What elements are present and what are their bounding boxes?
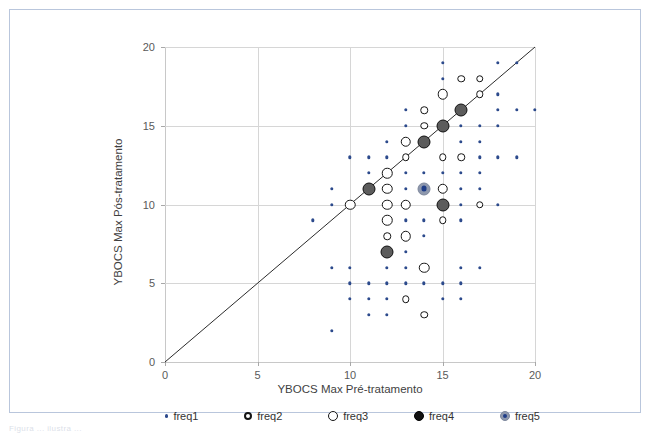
data-point-freq2 [439, 217, 447, 225]
data-point-freq1 [404, 266, 407, 269]
data-point-freq1 [367, 297, 370, 300]
data-point-freq1 [367, 313, 370, 316]
y-tick-label-15: 15 [143, 120, 155, 132]
gridline-x-20 [535, 47, 536, 362]
x-tick-5 [258, 362, 259, 366]
data-point-freq1 [385, 156, 388, 159]
data-point-freq1 [496, 61, 499, 64]
data-point-freq1 [459, 187, 462, 190]
data-point-freq1 [330, 329, 333, 332]
scatter-plot-area: 0510152005101520 [165, 47, 535, 362]
y-axis-title: YBOCS Max Pós-tratamento [112, 97, 124, 327]
data-point-freq3 [382, 199, 393, 210]
data-point-freq1 [478, 266, 481, 269]
data-point-freq1 [404, 250, 407, 253]
y-tick-label-10: 10 [143, 199, 155, 211]
data-point-freq3 [382, 215, 393, 226]
data-point-freq1 [404, 187, 407, 190]
y-tick-label-20: 20 [143, 41, 155, 53]
legend-item-freq2: freq2 [244, 410, 282, 422]
legend-label-freq3: freq3 [343, 410, 368, 422]
data-point-freq1 [348, 282, 351, 285]
data-point-freq1 [496, 93, 499, 96]
data-point-freq2 [420, 106, 428, 114]
legend-item-freq4: freq4 [414, 410, 454, 422]
data-point-freq1 [459, 219, 462, 222]
data-point-freq2 [420, 311, 428, 319]
data-point-freq3 [382, 184, 393, 195]
legend-label-freq2: freq2 [257, 410, 282, 422]
data-point-freq1 [441, 77, 444, 80]
y-tick-20 [161, 47, 165, 48]
data-point-freq4 [436, 198, 449, 211]
data-point-freq5 [418, 182, 431, 195]
data-point-freq3 [400, 231, 411, 242]
legend-marker-freq1-icon [165, 414, 168, 417]
legend-marker-freq5-icon [500, 411, 510, 421]
data-point-freq1 [478, 187, 481, 190]
data-point-freq1 [385, 282, 388, 285]
gridline-x-5 [258, 47, 259, 362]
x-tick-label-0: 0 [162, 369, 168, 381]
data-point-freq2 [402, 154, 410, 162]
y-tick-10 [161, 205, 165, 206]
data-point-freq3 [345, 199, 356, 210]
data-point-freq1 [441, 282, 444, 285]
data-point-freq1 [404, 108, 407, 111]
data-point-freq1 [404, 171, 407, 174]
data-point-freq3 [400, 199, 411, 210]
data-point-freq4 [436, 119, 449, 132]
data-point-freq2 [476, 201, 484, 209]
data-point-freq2 [439, 154, 447, 162]
data-point-freq1 [459, 171, 462, 174]
data-point-freq1 [330, 266, 333, 269]
data-point-freq3 [400, 136, 411, 147]
legend-item-freq5: freq5 [500, 410, 540, 422]
data-point-freq3 [382, 168, 393, 179]
data-point-freq4 [381, 245, 394, 258]
x-tick-label-5: 5 [254, 369, 260, 381]
data-point-freq1 [496, 108, 499, 111]
data-point-freq1 [496, 156, 499, 159]
figure-frame: 0510152005101520 YBOCS Max Pós-tratament… [9, 9, 641, 413]
data-point-freq1 [515, 61, 518, 64]
y-tick-label-0: 0 [149, 356, 155, 368]
legend-label-freq1: freq1 [173, 410, 198, 422]
y-tick-0 [161, 362, 165, 363]
x-tick-10 [350, 362, 351, 366]
data-point-freq3 [437, 184, 448, 195]
data-point-freq1 [441, 297, 444, 300]
legend-label-freq4: freq4 [429, 410, 454, 422]
legend-item-freq1: freq1 [165, 410, 198, 422]
data-point-freq1 [367, 282, 370, 285]
legend-label-freq5: freq5 [515, 410, 540, 422]
data-point-freq1 [478, 156, 481, 159]
data-point-freq1 [459, 297, 462, 300]
data-point-freq1 [478, 171, 481, 174]
data-point-freq1 [496, 124, 499, 127]
data-point-freq1 [515, 108, 518, 111]
data-point-freq1 [367, 156, 370, 159]
data-point-freq2 [457, 75, 465, 83]
y-tick-15 [161, 126, 165, 127]
data-point-freq1 [459, 266, 462, 269]
data-point-freq1 [422, 171, 425, 174]
data-point-freq2 [457, 154, 465, 162]
data-point-freq1 [311, 219, 314, 222]
data-point-freq1 [441, 171, 444, 174]
data-point-freq1 [422, 234, 425, 237]
figure-caption-text: Figura ... ilustra ... [9, 424, 309, 433]
legend-marker-freq4-icon [414, 411, 424, 421]
data-point-freq1 [459, 140, 462, 143]
data-point-freq1 [348, 297, 351, 300]
x-tick-label-10: 10 [344, 369, 356, 381]
legend-item-freq3: freq3 [328, 410, 368, 422]
data-point-freq1 [385, 266, 388, 269]
x-tick-20 [535, 362, 536, 366]
data-point-freq3 [437, 89, 448, 100]
data-point-freq1 [496, 203, 499, 206]
data-point-freq4 [455, 104, 468, 117]
data-point-freq2 [476, 75, 484, 83]
data-point-freq1 [385, 313, 388, 316]
data-point-freq4 [362, 182, 375, 195]
